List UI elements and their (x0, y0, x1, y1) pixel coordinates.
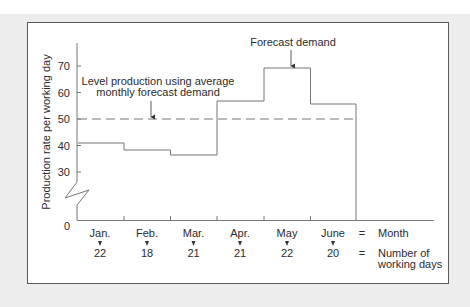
svg-text:60: 60 (58, 87, 70, 99)
row-legend: = Month = Number of working days (359, 227, 443, 270)
svg-text:Jan.: Jan. (90, 227, 111, 239)
svg-text:50: 50 (58, 113, 70, 125)
level-production-annotation: Level production using average monthly f… (82, 75, 235, 117)
svg-text:Mar.: Mar. (183, 227, 204, 239)
svg-text:Forecast demand: Forecast demand (250, 36, 336, 48)
month-to-days-arrows (98, 241, 335, 246)
month-labels: Jan. Feb. Mar. Apr. May June (90, 227, 345, 239)
forecast-demand-annotation: Forecast demand (250, 36, 336, 66)
svg-text:22: 22 (281, 247, 293, 259)
triangle-down-icon (331, 241, 335, 246)
svg-text:=: = (359, 247, 365, 259)
svg-text:Feb.: Feb. (136, 227, 158, 239)
x-axis (77, 216, 434, 221)
working-days-labels: 22 18 21 21 22 20 (94, 247, 339, 259)
triangle-down-icon (192, 241, 196, 246)
svg-text:40: 40 (58, 140, 70, 152)
svg-text:22: 22 (94, 247, 106, 259)
svg-text:=: = (359, 227, 365, 239)
triangle-down-icon (238, 241, 242, 246)
svg-text:May: May (277, 227, 298, 239)
svg-text:working days: working days (377, 258, 443, 270)
svg-text:Month: Month (378, 227, 409, 239)
svg-text:21: 21 (234, 247, 246, 259)
triangle-down-icon (285, 241, 289, 246)
triangle-down-icon (145, 241, 149, 246)
svg-text:monthly forecast demand: monthly forecast demand (96, 86, 220, 98)
svg-text:0: 0 (64, 220, 70, 232)
svg-text:21: 21 (187, 247, 199, 259)
svg-text:18: 18 (141, 247, 153, 259)
svg-text:70: 70 (58, 60, 70, 72)
svg-text:30: 30 (58, 166, 70, 178)
svg-text:June: June (321, 227, 345, 239)
y-axis-title: Production rate per working day (40, 54, 52, 210)
triangle-down-icon (98, 241, 102, 246)
chart-svg: 70 60 50 40 30 0 Production rate per wor… (0, 0, 470, 307)
svg-text:Apr.: Apr. (230, 227, 250, 239)
svg-text:20: 20 (327, 247, 339, 259)
y-tick-labels: 70 60 50 40 30 0 (58, 60, 70, 232)
